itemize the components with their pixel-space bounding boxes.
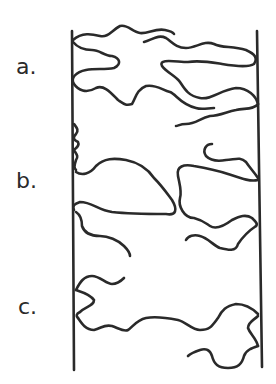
polymer-diagram	[0, 0, 276, 384]
section-a-chains	[73, 26, 258, 126]
section-c-chains	[76, 276, 258, 368]
section-b-chains	[73, 124, 258, 256]
